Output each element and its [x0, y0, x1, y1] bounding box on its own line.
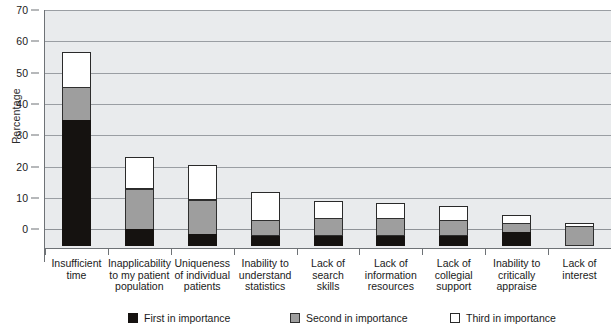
x-axis-label-line: patients	[171, 281, 234, 293]
y-axis-title: Percentage	[10, 66, 22, 166]
bar-group	[439, 10, 468, 248]
x-axis-separator	[359, 248, 360, 255]
bar-group	[565, 10, 594, 248]
x-axis-label: Inability tounderstandstatistics	[234, 258, 297, 293]
x-axis-separator	[45, 248, 46, 255]
y-tick-mark-10	[31, 197, 39, 198]
bar-segment-third	[62, 52, 91, 87]
legend: First in importanceSecond in importanceT…	[0, 312, 611, 331]
x-axis-label-line: time	[45, 270, 108, 282]
y-tick-label-20: 20	[2, 161, 28, 173]
bar-group	[251, 10, 280, 248]
x-axis-label: Lack ofinterest	[548, 258, 611, 281]
bar-segment-first	[251, 236, 280, 246]
x-axis-label: Lack ofsearchskills	[297, 258, 360, 293]
x-axis-label: Uniquenessof individualpatients	[171, 258, 234, 293]
bar-segment-second	[565, 226, 594, 246]
x-axis-separator	[485, 248, 486, 255]
legend-swatch-second	[290, 313, 300, 323]
y-tick-label-70: 70	[2, 4, 28, 16]
x-axis-label-line: Lack of	[548, 258, 611, 270]
y-tick-mark-0	[31, 229, 39, 230]
x-axis-label-line: appraise	[485, 281, 548, 293]
x-axis-separator	[422, 248, 423, 255]
y-tick-mark-50	[31, 72, 39, 73]
x-axis-line	[44, 248, 611, 249]
bar-segment-first	[188, 234, 217, 246]
y-tick-label-60: 60	[2, 35, 28, 47]
bar-segment-second	[62, 87, 91, 121]
x-axis-separator	[108, 248, 109, 255]
x-axis-label-line: Uniqueness	[171, 258, 234, 270]
legend-item: First in importance	[128, 312, 230, 324]
bar-group	[502, 10, 531, 248]
y-tick-label-50: 50	[2, 67, 28, 79]
bar-segment-second	[439, 220, 468, 237]
legend-item: Third in importance	[450, 312, 556, 324]
x-axis-label-line: Inability to	[485, 258, 548, 270]
bar-group	[125, 10, 154, 248]
legend-swatch-third	[450, 313, 460, 323]
x-axis-label-line: Inability to	[234, 258, 297, 270]
x-axis-separator	[297, 248, 298, 255]
bar-segment-third	[125, 157, 154, 189]
x-axis-label: Inapplicabilityto my patientpopulation	[108, 258, 171, 293]
x-axis-label-line: population	[108, 281, 171, 293]
x-axis-label-line: statistics	[234, 281, 297, 293]
y-tick-mark-20	[31, 166, 39, 167]
x-axis-label: Inability tocriticallyappraise	[485, 258, 548, 293]
legend-label: Second in importance	[306, 312, 408, 324]
bar-segment-first	[314, 236, 343, 246]
x-axis-separator	[171, 248, 172, 255]
bar-segment-third	[251, 192, 280, 221]
x-axis-label-line: Lack of	[359, 258, 422, 270]
y-tick-mark-30	[31, 135, 39, 136]
stacked-bar-chart: Percentage 010203040506070 Insufficientt…	[0, 0, 611, 331]
x-axis-label-line: support	[422, 281, 485, 293]
bar-group	[188, 10, 217, 248]
bar-segment-first	[376, 236, 405, 246]
y-tick-label-10: 10	[2, 192, 28, 204]
x-axis-label-line: skills	[297, 281, 360, 293]
plot-area	[45, 10, 611, 248]
bar-segment-second	[125, 189, 154, 231]
legend-label: First in importance	[144, 312, 230, 324]
bar-segment-third	[376, 203, 405, 220]
legend-item: Second in importance	[290, 312, 408, 324]
y-tick-label-40: 40	[2, 98, 28, 110]
bar-segment-third	[314, 201, 343, 219]
bar-segment-first	[502, 232, 531, 246]
bar-group	[62, 10, 91, 248]
x-axis-label-line: Insufficient	[45, 258, 108, 270]
x-axis-separator	[234, 248, 235, 255]
y-tick-mark-40	[31, 103, 39, 104]
x-axis-separator	[548, 248, 549, 255]
bar-segment-third	[439, 206, 468, 221]
bar-segment-third	[188, 165, 217, 200]
y-tick-mark-70	[31, 10, 39, 11]
x-axis-label-line: Lack of	[297, 258, 360, 270]
bar-segment-first	[439, 236, 468, 246]
bar-group	[376, 10, 405, 248]
x-axis-label: Lack ofinformationresources	[359, 258, 422, 293]
x-axis-label: Lack ofcollegialsupport	[422, 258, 485, 293]
bar-segment-first	[62, 120, 91, 246]
y-tick-mark-60	[31, 41, 39, 42]
x-axis-label-line: interest	[548, 270, 611, 282]
bar-segment-second	[251, 220, 280, 237]
bar-segment-second	[314, 218, 343, 236]
legend-label: Third in importance	[466, 312, 556, 324]
bar-group	[314, 10, 343, 248]
x-axis-label-line: Lack of	[422, 258, 485, 270]
y-tick-label-0: 0	[2, 223, 28, 235]
x-axis-label: Insufficienttime	[45, 258, 108, 281]
legend-swatch-first	[128, 313, 138, 323]
x-axis-label-line: resources	[359, 281, 422, 293]
bar-segment-first	[125, 229, 154, 246]
y-tick-label-30: 30	[2, 129, 28, 141]
bar-segment-second	[376, 218, 405, 236]
x-axis-label-line: Inapplicability	[108, 258, 171, 270]
bar-segment-second	[188, 200, 217, 235]
